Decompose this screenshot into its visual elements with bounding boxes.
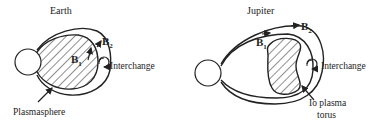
earth-interchange-label: Interchange: [110, 61, 155, 71]
magnetosphere-comparison-diagram: Earth B1 B2 Interchange Plasmasphere Jup…: [0, 0, 381, 127]
jupiter-b2-label: B2: [301, 20, 312, 35]
earth-b2-label: B2: [102, 35, 113, 50]
jupiter-interchange-label: Interchange: [321, 61, 366, 71]
plasmasphere-pointer-icon: [38, 88, 52, 102]
jupiter-b1-arrow-icon: [262, 33, 270, 34]
earth-panel: Earth B1 B2 Interchange Plasmasphere: [13, 5, 155, 117]
plasmasphere-region: [37, 35, 98, 89]
jupiter-interchange-swirl-icon: [307, 59, 317, 69]
earth-planet: [15, 49, 41, 75]
io-plasma-torus-region: [268, 38, 301, 94]
torus-label-line1: Io plasma: [309, 98, 347, 108]
earth-title: Earth: [50, 5, 72, 16]
interchange-swirl-icon: [99, 57, 109, 67]
jupiter-planet: [195, 60, 221, 86]
jupiter-panel: Jupiter B1 B2 Interchange Io plasma toru…: [195, 5, 366, 120]
jupiter-b1-label: B1: [256, 36, 267, 51]
jupiter-title: Jupiter: [247, 5, 275, 16]
torus-label-line2: torus: [317, 110, 336, 120]
plasmasphere-label: Plasmasphere: [13, 107, 65, 117]
b2-arrow-icon: [97, 41, 101, 47]
